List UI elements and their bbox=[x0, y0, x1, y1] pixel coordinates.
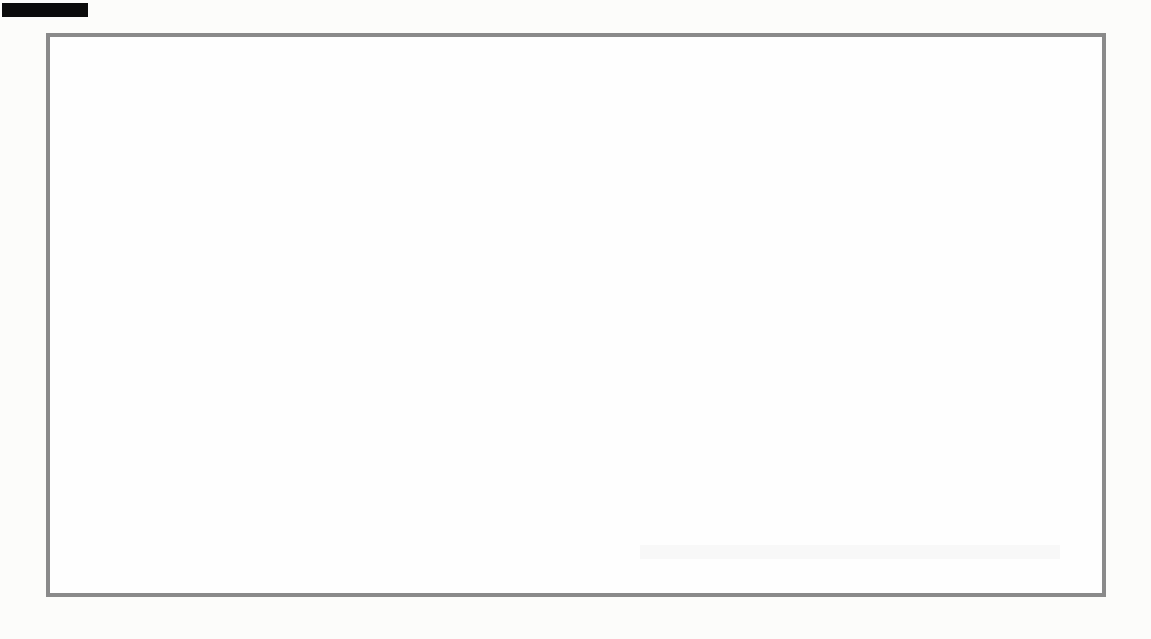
growth-line-chart bbox=[0, 0, 1151, 639]
scanned-page bbox=[0, 0, 1151, 639]
scan-smudge bbox=[640, 545, 1060, 559]
figure-caption bbox=[62, 515, 73, 538]
